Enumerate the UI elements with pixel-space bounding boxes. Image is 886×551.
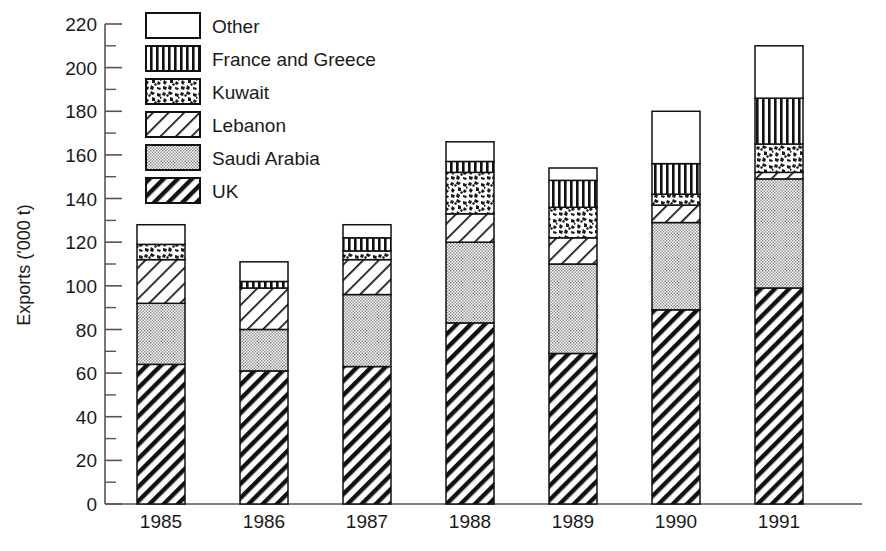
bar-1985[interactable] xyxy=(137,225,185,504)
legend-swatch-saudi-arabia xyxy=(146,145,200,170)
legend-label-france-and-greece: France and Greece xyxy=(212,49,376,70)
y-tick-label: 0 xyxy=(86,494,97,515)
y-tick-label: 40 xyxy=(76,407,97,428)
bar-segment-kuwait xyxy=(343,251,391,260)
y-tick-label: 20 xyxy=(76,450,97,471)
bar-1988[interactable] xyxy=(446,142,494,504)
bar-segment-uk xyxy=(343,367,391,504)
bar-segment-kuwait xyxy=(446,172,494,213)
legend-swatch-uk xyxy=(146,178,200,203)
y-tick-label: 120 xyxy=(65,232,97,253)
bar-1991[interactable] xyxy=(755,46,803,504)
bar-segment-lebanon xyxy=(446,214,494,242)
bar-segment-uk xyxy=(755,288,803,504)
x-tick-label: 1985 xyxy=(140,511,182,532)
bar-segment-other xyxy=(446,142,494,162)
bar-segment-france-and-greece xyxy=(240,281,288,288)
chart-container: 220 200 180 160 140 120 100 80 60 40 20 … xyxy=(0,0,886,551)
legend: Other France and Greece Kuwait Lebanon S… xyxy=(146,13,376,203)
legend-item-france-and-greece[interactable]: France and Greece xyxy=(146,46,376,71)
bar-segment-france-and-greece xyxy=(446,161,494,172)
bar-segment-uk xyxy=(446,323,494,504)
bar-1989[interactable] xyxy=(549,168,597,504)
legend-item-uk[interactable]: UK xyxy=(146,178,239,203)
bar-segment-france-and-greece xyxy=(652,164,700,195)
stacked-bar-chart: 220 200 180 160 140 120 100 80 60 40 20 … xyxy=(0,0,886,551)
y-axis: 220 200 180 160 140 120 100 80 60 40 20 … xyxy=(14,14,122,515)
bar-segment-other xyxy=(137,225,185,245)
bar-segment-lebanon xyxy=(240,288,288,329)
y-tick-label: 60 xyxy=(76,363,97,384)
legend-item-lebanon[interactable]: Lebanon xyxy=(146,112,286,137)
x-tick-label: 1986 xyxy=(243,511,285,532)
bar-segment-france-and-greece xyxy=(549,180,597,207)
bar-segment-other xyxy=(652,111,700,163)
legend-item-saudi-arabia[interactable]: Saudi Arabia xyxy=(146,145,320,170)
bar-segment-saudi-arabia xyxy=(755,179,803,288)
x-tick-label: 1991 xyxy=(758,511,800,532)
bar-segment-uk xyxy=(240,371,288,504)
x-tick-label: 1987 xyxy=(346,511,388,532)
bar-segment-kuwait xyxy=(652,194,700,205)
x-axis: 1985 1986 1987 1988 1989 1990 1991 xyxy=(105,504,862,532)
bar-1987[interactable] xyxy=(343,225,391,504)
bar-segment-other xyxy=(343,225,391,238)
bar-segment-saudi-arabia xyxy=(137,303,185,364)
bar-segment-saudi-arabia xyxy=(240,329,288,370)
y-tick-label: 160 xyxy=(65,145,97,166)
legend-label-other: Other xyxy=(212,16,260,37)
legend-swatch-lebanon xyxy=(146,112,200,137)
legend-label-kuwait: Kuwait xyxy=(212,82,270,103)
y-tick-label: 220 xyxy=(65,14,97,35)
legend-label-uk: UK xyxy=(212,181,239,202)
bar-segment-uk xyxy=(652,310,700,504)
bar-segment-saudi-arabia xyxy=(652,223,700,310)
bar-1986[interactable] xyxy=(240,262,288,504)
bar-segment-lebanon xyxy=(549,238,597,264)
bar-1990[interactable] xyxy=(652,111,700,504)
bar-segment-france-and-greece xyxy=(755,98,803,144)
bar-segment-uk xyxy=(549,353,597,504)
bar-segment-kuwait xyxy=(755,144,803,172)
bar-segment-kuwait xyxy=(549,207,597,238)
y-tick-label: 100 xyxy=(65,276,97,297)
x-tick-label: 1988 xyxy=(449,511,491,532)
bar-segment-other xyxy=(549,168,597,180)
bar-segment-other xyxy=(240,262,288,282)
y-tick-label: 140 xyxy=(65,189,97,210)
y-axis-title: Exports ('000 t) xyxy=(14,204,34,325)
bar-segment-lebanon xyxy=(343,260,391,295)
legend-swatch-kuwait xyxy=(146,79,200,104)
y-tick-label: 180 xyxy=(65,101,97,122)
bar-segment-saudi-arabia xyxy=(446,242,494,323)
legend-swatch-france-and-greece xyxy=(146,46,200,71)
y-axis-tick-labels: 220 200 180 160 140 120 100 80 60 40 20 … xyxy=(65,14,97,515)
y-tick-label: 80 xyxy=(76,320,97,341)
bar-segment-lebanon xyxy=(755,172,803,179)
bar-segment-lebanon xyxy=(137,260,185,304)
legend-item-other[interactable]: Other xyxy=(146,13,260,38)
legend-label-saudi-arabia: Saudi Arabia xyxy=(212,148,320,169)
legend-swatch-other xyxy=(146,13,200,38)
y-tick-label: 200 xyxy=(65,58,97,79)
bar-segment-uk xyxy=(137,364,185,504)
x-tick-label: 1990 xyxy=(655,511,697,532)
bar-segment-other xyxy=(755,46,803,98)
x-axis-tick-labels: 1985 1986 1987 1988 1989 1990 1991 xyxy=(140,511,800,532)
legend-label-lebanon: Lebanon xyxy=(212,115,286,136)
legend-item-kuwait[interactable]: Kuwait xyxy=(146,79,270,104)
bar-segment-kuwait xyxy=(137,244,185,259)
bar-segment-lebanon xyxy=(652,205,700,222)
bar-segment-saudi-arabia xyxy=(343,295,391,367)
bar-segment-france-and-greece xyxy=(343,238,391,251)
bar-segment-saudi-arabia xyxy=(549,264,597,353)
x-tick-label: 1989 xyxy=(552,511,594,532)
